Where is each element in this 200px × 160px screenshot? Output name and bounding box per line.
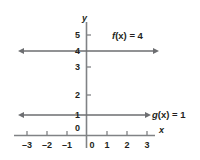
y-tick-label-2: 2 xyxy=(64,91,80,100)
y-tick-label-4: 4 xyxy=(64,47,80,56)
x-tick-label-1: 1 xyxy=(104,141,109,150)
y-tick-label-3: 3 xyxy=(64,63,80,72)
y-tick-label-5: 5 xyxy=(64,31,80,40)
x-tick-label-neg2: –2 xyxy=(42,141,52,150)
x-tick-label-0: 0 xyxy=(89,141,94,150)
x-tick-label-neg3: –3 xyxy=(22,141,32,150)
x-axis-label: x xyxy=(159,126,164,135)
y-axis-label: y xyxy=(82,14,87,23)
coordinate-plane-svg xyxy=(0,0,200,160)
function-label-f-expr: (x) = 4 xyxy=(115,30,143,41)
y-tick-label-0: 0 xyxy=(64,124,80,133)
function-label-g: g(x) = 1 xyxy=(152,110,186,120)
graph-figure: y x 5 4 3 2 1 0 –3 –2 –1 0 1 2 3 f(x) = … xyxy=(0,0,200,160)
y-tick-label-1: 1 xyxy=(64,111,80,120)
function-label-f: f(x) = 4 xyxy=(112,31,143,41)
x-tick-label-2: 2 xyxy=(124,141,129,150)
x-tick-label-neg1: –1 xyxy=(62,141,72,150)
function-label-g-expr: (x) = 1 xyxy=(158,109,186,120)
x-tick-label-3: 3 xyxy=(144,141,149,150)
